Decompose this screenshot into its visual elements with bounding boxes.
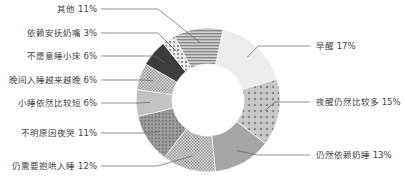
- leader-line: [101, 102, 150, 103]
- segment-label: 晚间入睡越来越晚 6%: [9, 75, 97, 85]
- segment-label: 仍然依赖奶睡 13%: [316, 150, 392, 160]
- segment-label: 依赖安抚奶嘴 3%: [27, 28, 97, 38]
- donut-segments: [136, 28, 280, 172]
- segment-label: 其他 11%: [57, 4, 97, 14]
- segment-label: 不愿意睡小床 6%: [27, 51, 97, 61]
- segment-label: 小睡依然比较短 6%: [18, 98, 97, 108]
- segment-label: 不明原因夜哭 11%: [21, 128, 97, 138]
- segment-label: 早醒 17%: [316, 41, 356, 51]
- donut-chart: 早醒 17%夜醒仍然比较多 15%仍然依赖奶睡 13%仍需要抱哄入睡 12%不明…: [0, 0, 405, 186]
- segment-label: 夜醒仍然比较多 15%: [316, 97, 401, 107]
- segment-label: 仍需要抱哄入睡 12%: [12, 161, 97, 171]
- donut-segment: [215, 30, 276, 90]
